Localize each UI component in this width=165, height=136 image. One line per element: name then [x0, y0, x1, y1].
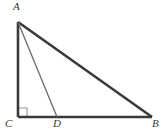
vertex-label-b: B [152, 118, 159, 129]
figure-canvas [0, 0, 165, 136]
vertex-label-a: A [13, 1, 20, 12]
right-angle-marker-c [18, 108, 27, 117]
vertex-label-d: D [53, 118, 61, 129]
geometry-figure: A C D B [0, 0, 165, 136]
vertex-label-c: C [5, 118, 12, 129]
